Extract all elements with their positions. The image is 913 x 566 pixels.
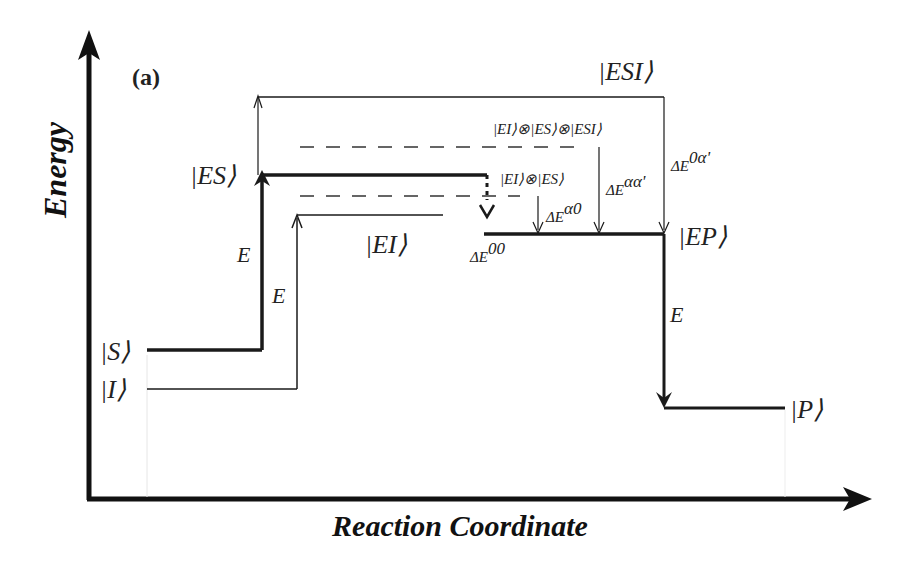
label-dE0a: ΔE0α' [670,148,710,174]
level-ESI [254,96,669,233]
label-EI-ES: |EI⟩⊗|ES⟩ [500,171,564,187]
y-axis-label: Energy [37,121,73,219]
label-EP: |EP⟩ [678,222,727,251]
label-I: |I⟩ [100,375,126,404]
label-EI-ES-ESI: |EI⟩⊗|ES⟩⊗|ESI⟩ [493,121,602,137]
label-E-EP-P: E [669,302,684,327]
label-dEa0: ΔEα0 [545,199,582,225]
label-S: |S⟩ [100,337,130,366]
label-E-I-EI: E [271,283,286,308]
x-axis [87,487,872,511]
y-axis [78,30,100,500]
label-EI: |EI⟩ [365,230,407,259]
x-axis-label: Reaction Coordinate [331,509,588,542]
label-dE00: ΔE00 [469,239,505,265]
label-ES: |ES⟩ [190,161,236,190]
panel-label: (a) [132,64,160,90]
label-dEaa: ΔEαα' [605,172,646,198]
energy-level-diagram: Energy Reaction Coordinate (a) [0,0,913,566]
path-S-to-ES [147,170,270,350]
label-ESI: |ESI⟩ [598,57,653,86]
label-E-S-ES: E [236,242,251,267]
label-P: |P⟩ [790,395,823,424]
level-EP [484,234,785,408]
